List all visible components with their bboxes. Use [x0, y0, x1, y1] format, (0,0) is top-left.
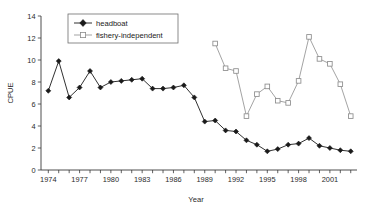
legend-label-fishery-independent: fishery-independent [96, 31, 164, 40]
x-tick-label: 1995 [259, 175, 275, 184]
data-point-fishery-independent-1992 [234, 69, 239, 74]
data-point-fishery-independent-1997 [286, 101, 291, 106]
y-tick-label: 14 [27, 12, 35, 21]
legend-label-headboat: headboat [96, 19, 129, 28]
data-point-fishery-independent-1991 [223, 66, 228, 71]
data-point-fishery-independent-1995 [265, 84, 270, 89]
x-tick-label: 1983 [134, 175, 150, 184]
y-tick-label: 2 [31, 144, 35, 153]
y-tick-label: 10 [27, 56, 35, 65]
x-axis-title: Year [188, 195, 204, 204]
y-tick-label: 8 [31, 78, 35, 87]
data-point-fishery-independent-2001 [328, 62, 333, 67]
x-tick-label: 1980 [103, 175, 119, 184]
chart-legend: headboat fishery-independent [68, 14, 178, 43]
data-point-fishery-independent-1993 [244, 114, 249, 119]
data-point-fishery-independent-2002 [338, 82, 343, 87]
data-point-fishery-independent-1996 [275, 98, 280, 103]
data-point-fishery-independent-1994 [255, 92, 260, 97]
data-point-fishery-independent-2000 [317, 57, 322, 62]
x-tick-label: 1977 [71, 175, 87, 184]
x-tick-label: 2001 [322, 175, 338, 184]
data-point-fishery-independent-2003 [348, 114, 353, 119]
chart-container: 02468101214 1974197719801983198619891992… [0, 0, 366, 207]
data-point-fishery-independent-1999 [307, 35, 312, 40]
open-square-icon [80, 32, 85, 37]
x-tick-label: 1989 [197, 175, 213, 184]
y-tick-label: 6 [31, 100, 35, 109]
x-tick-label: 1992 [228, 175, 244, 184]
x-tick-label: 1986 [165, 175, 181, 184]
x-tick-label: 1974 [40, 175, 56, 184]
y-tick-label: 0 [31, 166, 35, 175]
data-point-fishery-independent-1990 [213, 41, 218, 46]
y-tick-label: 12 [27, 34, 35, 43]
data-point-fishery-independent-1998 [296, 79, 301, 84]
x-tick-label: 1998 [290, 175, 306, 184]
y-tick-label: 4 [31, 122, 35, 131]
y-axis-title: CPUE [6, 82, 15, 103]
cpue-line-chart: 02468101214 1974197719801983198619891992… [0, 0, 366, 207]
